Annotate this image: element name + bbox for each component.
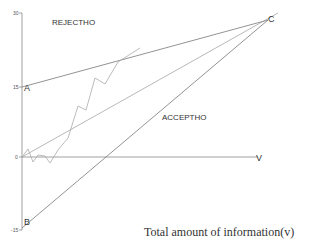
point-c-label: C xyxy=(268,14,275,24)
region-accept-label: ACCEPTHO xyxy=(162,113,206,122)
line-a-c xyxy=(22,20,268,87)
sequential-test-chart: 30 15 0 -15 V A B C REJECTHO ACCEPTHO To… xyxy=(0,0,311,249)
statistic-path xyxy=(22,48,140,163)
point-a-label: A xyxy=(24,83,30,93)
y-tick-label-neg15: -15 xyxy=(11,227,18,233)
region-reject-label: REJECTHO xyxy=(52,18,95,27)
x-axis-label: Total amount of information(v) xyxy=(144,225,294,239)
y-tick-label-30: 30 xyxy=(13,10,19,16)
line-b-c xyxy=(22,20,268,228)
line-origin-c xyxy=(22,13,278,157)
y-tick-label-0: 0 xyxy=(15,154,18,160)
axis-v-label: V xyxy=(256,153,262,163)
y-tick-label-15: 15 xyxy=(13,84,19,90)
point-b-label: B xyxy=(24,217,30,227)
